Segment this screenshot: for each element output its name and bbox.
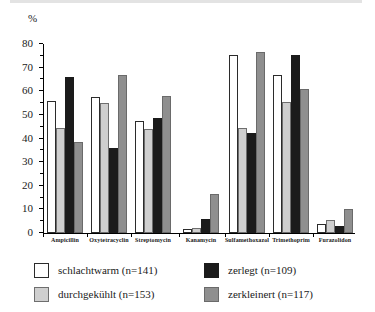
y-axis-tick: 20 [39, 185, 43, 186]
legend-swatch [204, 287, 219, 302]
y-axis-tick-label: 0 [28, 227, 34, 238]
y-axis-tick-label: 10 [22, 203, 33, 214]
bar [135, 121, 144, 233]
x-axis-category-label: Streptomycin [135, 237, 171, 243]
x-axis-category-label: Trimethoprim [272, 237, 310, 243]
x-axis-category-label: Furazolidon [319, 237, 351, 243]
y-axis-minor-tick [40, 55, 43, 56]
bar [118, 75, 127, 233]
x-axis-tick [225, 234, 226, 237]
bar [238, 128, 247, 233]
bar [162, 96, 171, 233]
bar [247, 133, 256, 233]
bar-chart-figure: % 01020304050607080 schlachtwarm (n=141)… [0, 0, 375, 312]
y-axis-tick: 50 [39, 114, 43, 115]
x-axis-tick [269, 234, 270, 237]
y-axis-minor-tick [40, 220, 43, 221]
bar-group [273, 44, 311, 233]
legend-label: durchgekühlt (n=153) [58, 288, 154, 300]
scan-edge-artifact [10, 0, 362, 3]
legend-swatch [34, 287, 49, 302]
legend-item: zerlegt (n=109) [204, 263, 364, 278]
y-axis-minor-tick [40, 102, 43, 103]
y-axis-tick-label: 70 [22, 61, 33, 72]
bar [300, 89, 309, 233]
y-axis-tick-label: 80 [22, 38, 33, 49]
y-axis-tick-label: 60 [22, 85, 33, 96]
x-axis-category-label: Sulfamethoxazol [225, 237, 269, 243]
bar-group [317, 44, 355, 233]
bar [344, 209, 353, 233]
bar [109, 148, 118, 233]
y-axis-tick: 40 [39, 138, 43, 139]
legend-item: durchgekühlt (n=153) [34, 287, 204, 302]
legend-item: zerkleinert (n=117) [204, 287, 364, 302]
bar [291, 55, 300, 233]
x-axis-category-label: Oxytetracyclin [89, 237, 128, 243]
y-axis-tick-label: 30 [22, 156, 33, 167]
y-axis-minor-tick [40, 78, 43, 79]
x-axis-category-label: Kanamycin [186, 237, 217, 243]
y-axis-minor-tick [40, 149, 43, 150]
bar [282, 102, 291, 233]
legend-swatch [34, 263, 49, 278]
bar [56, 128, 65, 233]
legend-swatch [204, 263, 219, 278]
bar-group [135, 44, 173, 233]
x-axis-tick [43, 234, 44, 237]
y-axis-tick-label: 40 [22, 132, 33, 143]
bar [229, 55, 238, 233]
bar [74, 142, 83, 233]
bar [335, 226, 344, 233]
bar [100, 103, 109, 233]
bar-group [229, 44, 267, 233]
y-axis-tick: 10 [39, 208, 43, 209]
bar [201, 219, 210, 233]
y-axis-tick: 30 [39, 161, 43, 162]
bar [144, 129, 153, 233]
bar-group [47, 44, 85, 233]
x-axis-tick [131, 234, 132, 237]
bar [326, 220, 335, 233]
y-axis-tick: 0 [39, 232, 43, 233]
legend-item: schlachtwarm (n=141) [34, 263, 204, 278]
x-axis-tick [179, 234, 180, 237]
y-axis-tick: 60 [39, 90, 43, 91]
y-axis-minor-tick [40, 173, 43, 174]
bar [192, 228, 201, 233]
bar-group [91, 44, 129, 233]
bar [210, 194, 219, 233]
x-axis-tick [313, 234, 314, 237]
y-axis-minor-tick [40, 126, 43, 127]
y-axis-tick: 70 [39, 67, 43, 68]
x-axis-category-label: Ampicillin [51, 237, 79, 243]
bar [91, 97, 100, 233]
x-axis-tick [87, 234, 88, 237]
bar [317, 224, 326, 233]
bar [183, 229, 192, 233]
y-axis-unit-label: % [28, 12, 38, 24]
bar [47, 101, 56, 233]
legend-label: zerkleinert (n=117) [228, 288, 313, 300]
y-axis-minor-tick [40, 197, 43, 198]
chart-legend: schlachtwarm (n=141)zerlegt (n=109)durch… [34, 258, 354, 306]
bar [256, 52, 265, 233]
bar-group [183, 44, 221, 233]
bar [273, 75, 282, 233]
y-axis-tick: 80 [39, 43, 43, 44]
legend-label: schlachtwarm (n=141) [58, 264, 157, 276]
x-axis-line [43, 233, 355, 234]
legend-label: zerlegt (n=109) [228, 264, 296, 276]
y-axis-tick-label: 50 [22, 108, 33, 119]
bar [65, 77, 74, 233]
plot-area: 01020304050607080 [43, 44, 353, 233]
bar [153, 118, 162, 233]
y-axis-tick-label: 20 [22, 179, 33, 190]
